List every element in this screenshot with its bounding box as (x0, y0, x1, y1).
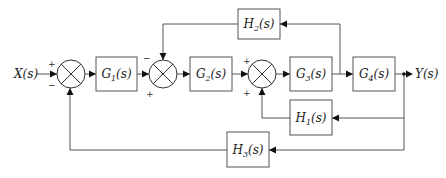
sign-s1-bottom: − (48, 80, 56, 90)
svg-text:H1(s): H1(s) (294, 111, 326, 127)
svg-text:G1(s): G1(s) (101, 67, 132, 83)
arrow-into-s2-top (160, 53, 167, 60)
arrow-into-g1 (89, 71, 96, 78)
block-g2: G2(s) (190, 57, 232, 91)
svg-text:G4(s): G4(s) (359, 67, 390, 83)
arrow-into-g2 (183, 71, 190, 78)
arrow-into-s1 (50, 71, 57, 78)
wire-h3-feedback (269, 118, 404, 150)
branch-point (402, 72, 406, 76)
block-g4: G4(s) (353, 57, 395, 91)
input-label: X(s) (13, 67, 38, 81)
svg-text:H2(s): H2(s) (242, 17, 274, 33)
wire-h1-to-s3 (262, 88, 290, 118)
wire-h2-to-s2 (163, 24, 238, 60)
arrow-into-h1 (332, 115, 339, 122)
sign-s2-left: + (146, 89, 154, 99)
arrow-into-s3-bottom (259, 88, 266, 95)
block-g1: G1(s) (96, 57, 137, 91)
arrow-into-g4 (346, 71, 353, 78)
block-h1: H1(s) (290, 100, 332, 135)
block-diagram: + − − + + + G1(s) G2(s) G3(s) G4(s) H1(s… (0, 0, 446, 178)
block-h2: H2(s) (238, 9, 280, 39)
arrow-into-h2 (280, 21, 287, 28)
block-g3: G3(s) (290, 57, 332, 91)
arrow-into-s3 (241, 71, 248, 78)
svg-text:H3(s): H3(s) (231, 143, 263, 159)
arrow-into-g3 (283, 71, 290, 78)
arrow-into-s2 (142, 71, 149, 78)
summing-junction-3: + + (243, 56, 276, 98)
output-label: Y(s) (415, 67, 439, 81)
sign-s1-left: + (48, 59, 56, 69)
block-h3: H3(s) (227, 132, 269, 167)
sign-s3-bottom: + (243, 88, 251, 98)
svg-text:G2(s): G2(s) (196, 67, 227, 83)
arrow-into-h3 (269, 147, 276, 154)
svg-text:G3(s): G3(s) (296, 67, 327, 83)
arrow-into-s1-bottom (67, 88, 74, 95)
summing-junction-2: − + (143, 53, 177, 99)
arrow-output (406, 71, 413, 78)
sign-s3-left: + (243, 56, 251, 66)
sign-s2-top: − (143, 53, 151, 63)
